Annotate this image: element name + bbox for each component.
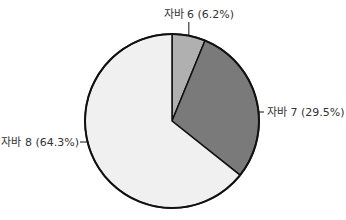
pie-chart: 자바 6 (6.2%) 자바 7 (29.5%) 자바 8 (64.3%) bbox=[0, 0, 346, 220]
pie-slices bbox=[85, 34, 259, 208]
label-java6: 자바 6 (6.2%) bbox=[164, 8, 235, 21]
label-java8: 자바 8 (64.3%) bbox=[1, 136, 79, 149]
label-java7: 자바 7 (29.5%) bbox=[267, 106, 345, 119]
